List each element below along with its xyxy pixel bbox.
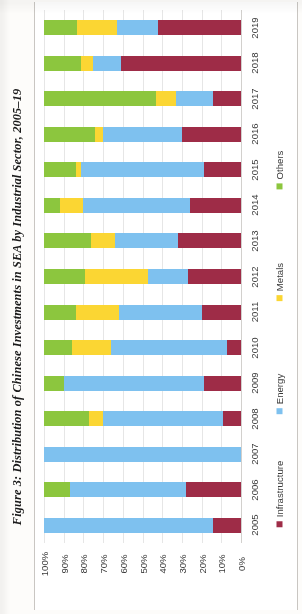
figure-caption-area: Figure 3: Distribution of Chinese Invest…	[0, 0, 34, 614]
legend-item-infra[interactable]: Infrastructure	[262, 446, 296, 542]
bar-row	[44, 269, 241, 284]
bar-segment-infra	[227, 340, 241, 355]
bar-row	[44, 198, 241, 213]
bar-segment-infra	[204, 376, 241, 391]
bar-segment-others	[44, 56, 81, 71]
chart-frame: 2019201820172016201520142013201220112010…	[34, 2, 298, 610]
bar-segment-others	[44, 411, 89, 426]
bar-segment-metals	[95, 127, 103, 142]
bar-rows	[44, 10, 241, 543]
bar-segment-others	[44, 376, 64, 391]
bar-segment-metals	[89, 411, 103, 426]
legend-swatch-icon	[276, 408, 282, 414]
bar-segment-energy	[117, 20, 158, 35]
bar-segment-energy	[111, 340, 227, 355]
bar-row	[44, 56, 241, 71]
bar-segment-infra	[121, 56, 241, 71]
bar-segment-others	[44, 340, 72, 355]
bar-row	[44, 411, 241, 426]
legend-swatch-icon	[276, 295, 282, 301]
legend-swatch-icon	[276, 183, 282, 189]
bar-segment-others	[44, 20, 77, 35]
bar-segment-others	[44, 127, 95, 142]
bar-segment-infra	[190, 198, 241, 213]
bar-segment-others	[44, 305, 76, 320]
bar-segment-energy	[115, 233, 178, 248]
percent-tick-label: 40%	[151, 547, 173, 581]
bar-segment-others	[44, 91, 156, 106]
legend-label: Infrastructure	[274, 461, 285, 518]
percent-tick-label: 60%	[112, 547, 134, 581]
legend-label: Energy	[274, 374, 285, 404]
bar-segment-infra	[188, 269, 241, 284]
bar-row	[44, 376, 241, 391]
legend-item-energy[interactable]: Energy	[262, 346, 296, 442]
legend-label: Others	[274, 151, 285, 180]
bar-segment-energy	[119, 305, 202, 320]
bar-segment-energy	[81, 162, 203, 177]
bar-segment-others	[44, 198, 60, 213]
figure-page: Figure 3: Distribution of Chinese Invest…	[0, 0, 302, 614]
percent-tick-label: 30%	[171, 547, 193, 581]
bar-segment-infra	[186, 482, 241, 497]
bar-segment-energy	[64, 376, 204, 391]
bar-row	[44, 91, 241, 106]
bar-row	[44, 233, 241, 248]
legend-item-metals[interactable]: Metals	[262, 234, 296, 330]
percent-tick-label: 80%	[72, 547, 94, 581]
bar-segment-energy	[83, 198, 189, 213]
percent-tick-label: 0%	[230, 547, 252, 581]
bar-segment-metals	[77, 20, 116, 35]
page-title: Figure 3: Distribution of Chinese Invest…	[10, 89, 25, 525]
bar-segment-metals	[76, 305, 119, 320]
percent-axis-labels: 100%90%80%70%60%50%40%30%20%10%0%	[44, 547, 241, 581]
bar-row	[44, 162, 241, 177]
percent-tick-label: 70%	[92, 547, 114, 581]
bar-segment-infra	[213, 518, 241, 533]
legend-swatch-icon	[276, 521, 282, 527]
bar-segment-energy	[148, 269, 187, 284]
bar-row	[44, 447, 241, 462]
bar-segment-others	[44, 482, 70, 497]
percent-tick-label: 100%	[33, 547, 55, 581]
bar-segment-energy	[103, 411, 223, 426]
bar-segment-others	[44, 269, 85, 284]
bar-segment-infra	[158, 20, 241, 35]
bar-row	[44, 482, 241, 497]
plot-area	[44, 10, 241, 543]
bar-row	[44, 340, 241, 355]
bar-row	[44, 518, 241, 533]
bar-segment-energy	[44, 447, 241, 462]
percent-tick-label: 20%	[191, 547, 213, 581]
bar-segment-energy	[70, 482, 186, 497]
bar-segment-energy	[176, 91, 213, 106]
bar-segment-metals	[72, 340, 111, 355]
bar-segment-metals	[85, 269, 148, 284]
percent-tick-label: 90%	[53, 547, 75, 581]
bar-segment-infra	[204, 162, 241, 177]
legend-label: Metals	[274, 263, 285, 291]
bar-segment-metals	[60, 198, 84, 213]
bar-segment-infra	[202, 305, 241, 320]
legend-item-others[interactable]: Others	[262, 122, 296, 218]
bar-segment-others	[44, 233, 91, 248]
bar-segment-infra	[213, 91, 241, 106]
percent-tick-label: 50%	[132, 547, 154, 581]
bar-segment-infra	[178, 233, 241, 248]
bar-segment-metals	[81, 56, 93, 71]
bar-row	[44, 20, 241, 35]
bar-segment-energy	[93, 56, 121, 71]
chart-legend: OthersMetalsEnergyInfrastructure	[262, 2, 296, 610]
bar-segment-infra	[182, 127, 241, 142]
bar-segment-energy	[103, 127, 182, 142]
bar-segment-metals	[156, 91, 176, 106]
bar-segment-others	[44, 162, 76, 177]
bar-segment-metals	[91, 233, 115, 248]
percent-tick-label: 10%	[210, 547, 232, 581]
bar-segment-energy	[44, 518, 213, 533]
bar-segment-infra	[223, 411, 241, 426]
bar-row	[44, 305, 241, 320]
bar-row	[44, 127, 241, 142]
